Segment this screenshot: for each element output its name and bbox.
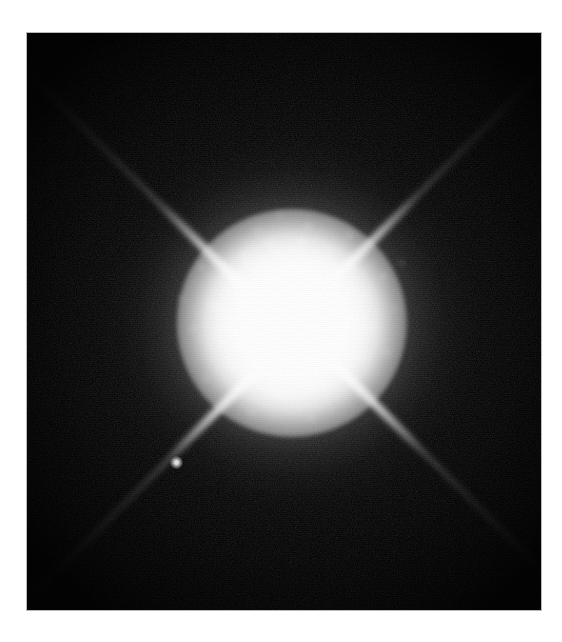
astronomy-photo bbox=[27, 33, 541, 610]
primary-star-core bbox=[177, 209, 407, 437]
page-root bbox=[0, 0, 562, 642]
companion-star bbox=[170, 456, 183, 469]
